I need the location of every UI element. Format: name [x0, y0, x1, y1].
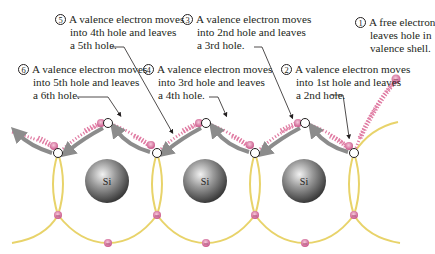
- svg-text:−: −: [351, 212, 356, 220]
- svg-text:Si: Si: [103, 176, 112, 187]
- annotation-step-4: 4A valence electron moves into 3rd hole …: [143, 63, 272, 102]
- si-atom: Si: [282, 159, 326, 203]
- annotation-step-6: 6A valence electron moves into 5th hole …: [18, 63, 147, 102]
- annotation-step-2: 2A valence electron moves into 1st hole …: [281, 63, 410, 102]
- step-number-badge: 2: [281, 64, 292, 75]
- si-atom: Si: [183, 159, 227, 203]
- svg-text:−: −: [105, 240, 110, 248]
- step-number-badge: 5: [55, 14, 66, 25]
- step-number-badge: 1: [355, 17, 366, 28]
- step-number-badge: 6: [18, 64, 29, 75]
- svg-text:−: −: [252, 212, 257, 220]
- svg-text:Si: Si: [300, 176, 309, 187]
- svg-text:−: −: [154, 212, 159, 220]
- annotation-step-5: 5A valence electron moves into 4th hole …: [55, 13, 184, 52]
- hole-movement-arrows: [18, 128, 348, 153]
- annotation-step-1: 1A free electron leaves hole in valence …: [355, 16, 435, 55]
- svg-text:−: −: [302, 240, 307, 248]
- si-atom: Si: [85, 159, 129, 203]
- svg-text:−: −: [203, 240, 208, 248]
- svg-text:Si: Si: [201, 176, 210, 187]
- svg-text:−: −: [55, 212, 60, 220]
- annotation-step-3: 3A valence electron moves into 2nd hole …: [182, 13, 311, 52]
